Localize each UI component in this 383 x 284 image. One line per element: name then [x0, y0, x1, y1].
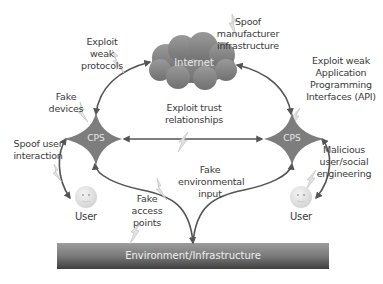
- attack-fake-devices: Fake devices: [47, 91, 85, 115]
- cps-right-label: CPS: [278, 133, 306, 143]
- attack-spoof-manufacturer: Spoof manufacturer infrastructure: [211, 16, 285, 52]
- user-right-label: User: [285, 211, 317, 223]
- attack-fake-access-points: Fake access points: [127, 193, 167, 229]
- attack-exploit-trust: Exploit trust relationships: [156, 102, 232, 126]
- user-right-face-icon: [290, 186, 312, 208]
- attack-exploit-weak-api: Exploit weak Application Programming Int…: [301, 55, 381, 103]
- cps-left-label: CPS: [82, 133, 110, 143]
- attack-fake-environmental-input: Fake environmental input: [178, 164, 242, 200]
- lightning-icon: [178, 132, 188, 152]
- user-left-label: User: [70, 211, 102, 223]
- attack-malicious-user: Malicious user/social engineering: [313, 144, 375, 180]
- environment-label: Environment/Infrastructure: [57, 250, 329, 261]
- internet-label: Internet: [166, 57, 222, 68]
- attack-spoof-user-interaction: Spoof user interaction: [10, 138, 66, 162]
- arrow-internet-cps-right: [237, 65, 291, 114]
- user-left-face-icon: [75, 186, 97, 208]
- attack-exploit-weak-protocols: Exploit weak protocols: [76, 36, 128, 72]
